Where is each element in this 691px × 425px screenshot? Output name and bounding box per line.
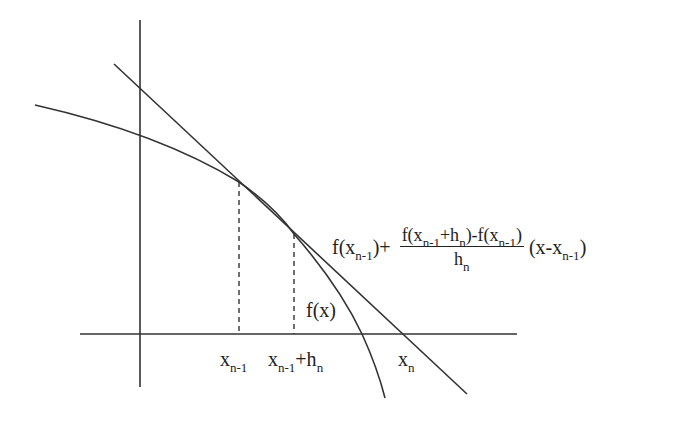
den-base: h [454, 249, 463, 269]
x-n-base: x [398, 348, 408, 370]
num-p2: +h [440, 225, 459, 245]
secant-method-diagram: f(x) xn-1 xn-1+hn xn f(xn-1)+ f(xn-1+hn)… [0, 0, 691, 425]
formula-suffix: (x-xn-1) [529, 236, 586, 258]
x-n-sub: n [408, 360, 415, 375]
x-prev-label: xn-1 [220, 349, 247, 369]
x-prev-h-base: x [268, 348, 278, 370]
curve-label: f(x) [306, 300, 336, 320]
num-s2: n [459, 235, 466, 250]
num-p3: )-f(x [466, 225, 499, 245]
formula-prefix-base: f(x [332, 236, 355, 258]
num-p4: ) [516, 225, 522, 245]
formula-suffix-tail: ) [580, 236, 587, 258]
x-prev-h-suffix-sub: n [317, 360, 324, 375]
curve-label-text: f(x) [306, 299, 336, 321]
fraction-denominator: hn [400, 247, 524, 268]
num-s1: n-1 [423, 235, 440, 250]
x-n-label: xn [398, 349, 415, 369]
x-prev-h-sub: n-1 [278, 360, 295, 375]
formula-fraction: f(xn-1+hn)-f(xn-1) hn [400, 226, 524, 268]
formula-prefix-sub: n-1 [355, 248, 372, 263]
x-prev-h-label: xn-1+hn [268, 349, 323, 369]
diagram-graphics [0, 0, 691, 425]
num-p1: f(x [402, 225, 423, 245]
fraction-numerator: f(xn-1+hn)-f(xn-1) [400, 226, 524, 247]
x-prev-base: x [220, 348, 230, 370]
secant-formula: f(xn-1)+ f(xn-1+hn)-f(xn-1) hn (x-xn-1) [332, 226, 586, 268]
formula-suffix-base: (x-x [529, 236, 562, 258]
num-s3: n-1 [499, 235, 516, 250]
den-sub: n [463, 259, 470, 274]
formula-suffix-sub: n-1 [562, 248, 579, 263]
formula-prefix: f(xn-1)+ [332, 236, 391, 258]
x-prev-sub: n-1 [230, 360, 247, 375]
x-prev-h-suffix: +h [295, 348, 316, 370]
formula-prefix-tail: )+ [373, 236, 391, 258]
